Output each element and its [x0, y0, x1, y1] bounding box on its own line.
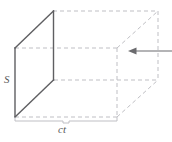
arrow-head [128, 48, 137, 55]
right-bottom-receding-edge [117, 80, 158, 117]
incoming-flux-arrow [128, 48, 172, 55]
cross-section-face-S [15, 11, 54, 117]
geometry-figure: S ct [0, 0, 172, 142]
area-label-s: S [4, 74, 10, 85]
length-label-ct: ct [58, 124, 66, 135]
face-top-edge [15, 11, 54, 48]
right-top-receding-edge [117, 11, 158, 48]
box-diagram-canvas [0, 0, 172, 142]
length-dimension-brace [15, 117, 117, 123]
face-bottom-edge [15, 80, 54, 117]
brace-path [15, 117, 117, 123]
